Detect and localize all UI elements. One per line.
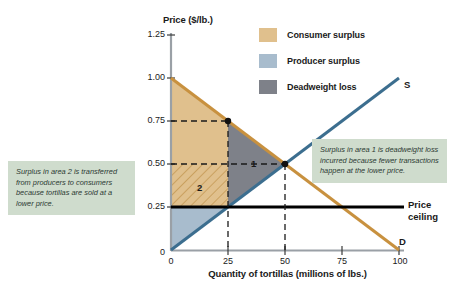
legend-swatch-deadweight-loss [259,80,277,94]
x-tick-label-75: 75 [330,256,354,267]
legend-label-deadweight-loss: Deadweight loss [287,82,357,93]
x-axis-title: Quantity of tortillas (millions of lbs.) [171,268,404,279]
x-tick-label-25: 25 [216,256,240,267]
price-ceiling-label-line2: ceiling [408,211,438,222]
legend-label-consumer-surplus: Consumer surplus [287,30,365,41]
area-2-label: 2 [197,182,202,193]
y-tick-label-075: 0.75 [139,115,165,126]
marker-demand-at-25 [225,118,231,124]
y-tick-label-050: 0.50 [139,158,165,169]
x-tick-label-0: 0 [159,256,183,267]
legend-swatch-consumer-surplus [259,28,277,42]
x-tick-label-100: 100 [387,256,413,267]
y-tick-label-100: 1.00 [139,72,165,83]
price-ceiling-label-line1: Price [408,199,431,210]
note-area-1-deadweight: Surplus in area 1 is deadweight loss inc… [312,139,447,183]
area-1-label: 1 [251,158,256,169]
economics-surplus-chart: Price ($/lb.) 1.25 1.00 0.75 0.50 0.25 0… [0,0,463,287]
legend-label-producer-surplus: Producer surplus [287,56,360,67]
marker-equilibrium [282,161,288,167]
note-area-2-transfer: Surplus in area 2 is transferred from pr… [8,161,135,215]
demand-curve-label: D [399,236,406,247]
x-tick-label-50: 50 [273,256,297,267]
y-tick-label-025: 0.25 [139,201,165,212]
supply-curve-label: S [404,79,410,90]
y-axis-title: Price ($/lb.) [163,14,213,25]
legend-swatch-producer-surplus [259,54,277,68]
y-tick-label-125: 1.25 [139,29,165,40]
